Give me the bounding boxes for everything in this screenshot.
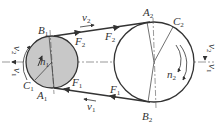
label-a1: A1 xyxy=(36,89,48,103)
diagram-canvas: B1 A1 C1 n1 A2 B2 C2 n2 F2 F2 F1 F1 v2 v… xyxy=(0,0,218,123)
label-v1-bottom: v1 xyxy=(87,100,96,114)
label-v2-left: v2 xyxy=(10,46,24,55)
label-a2: A2 xyxy=(142,6,154,20)
belt-drive-diagram: B1 A1 C1 n1 A2 B2 C2 n2 F2 F2 F1 F1 v2 v… xyxy=(0,0,218,123)
svg-text:v1: v1 xyxy=(10,68,24,77)
label-v2-top: v2 xyxy=(82,11,91,25)
label-v2-right: v2 xyxy=(205,44,218,53)
svg-text:v2: v2 xyxy=(10,46,24,55)
v2-arrow-top xyxy=(80,25,94,27)
label-b2: B2 xyxy=(142,110,153,123)
label-v1-left: v1 xyxy=(10,68,24,77)
label-b1: B1 xyxy=(38,24,49,38)
svg-text:v1: v1 xyxy=(205,64,218,73)
label-c2: C2 xyxy=(173,15,184,29)
label-f1-left: F1 xyxy=(71,76,83,90)
label-f2-left: F2 xyxy=(74,35,86,49)
label-v1-right: v1 xyxy=(205,64,218,73)
label-c1: C1 xyxy=(23,79,34,93)
label-f1-right: F1 xyxy=(109,83,121,97)
svg-text:v2: v2 xyxy=(205,44,218,53)
label-f2-right: F2 xyxy=(104,30,116,44)
